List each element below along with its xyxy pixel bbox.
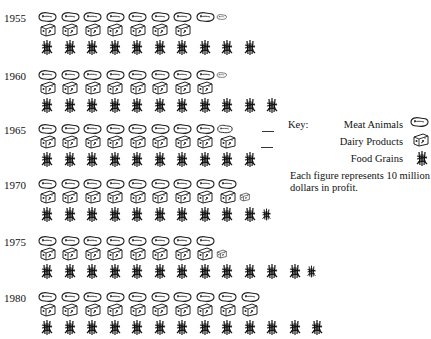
cheese-icon: [171, 135, 194, 149]
meat-icon: [59, 290, 82, 304]
meat-icon: [409, 116, 429, 131]
wheat-icon: [284, 318, 307, 336]
cheese-icon: [149, 303, 172, 317]
meat-icon: [216, 68, 227, 82]
cheese-icon: [59, 190, 82, 204]
key-title: Key:: [288, 118, 308, 131]
wheat-icon: [126, 262, 149, 280]
wheat-icon: [81, 96, 104, 114]
cheese-icon: [81, 23, 104, 37]
cheese-icon: [59, 247, 82, 261]
wheat-icon: [81, 318, 104, 336]
meat-icon: [104, 68, 127, 82]
wheat-icon: [194, 96, 217, 114]
cheese-icon: [149, 247, 172, 261]
wheat-icon: [126, 318, 149, 336]
meat-icon: [194, 68, 217, 82]
wheat-icon: [239, 262, 262, 280]
legend-item-grain: Food Grains: [290, 150, 431, 167]
wheat-icon: [239, 38, 262, 56]
meat-icon: [104, 10, 127, 24]
wheat-icon: [36, 38, 59, 56]
wheat-icon: [126, 38, 149, 56]
meat-icon: [59, 122, 82, 136]
dairy-row: [36, 190, 250, 204]
cheese-icon: [126, 135, 149, 149]
wheat-icon: [216, 262, 239, 280]
wheat-icon: [59, 205, 82, 223]
cheese-icon: [171, 247, 194, 261]
year-group-1960: 1960: [0, 68, 330, 118]
meat-icon: [36, 10, 59, 24]
cheese-icon: [104, 81, 127, 95]
wheat-icon: [194, 150, 217, 168]
wheat-icon: [59, 38, 82, 56]
cheese-icon: [149, 190, 172, 204]
meat-row: [36, 10, 227, 24]
meat-icon: [81, 68, 104, 82]
wheat-icon: [149, 150, 172, 168]
cheese-icon: [194, 190, 217, 204]
wheat-icon: [104, 150, 127, 168]
meat-icon: [36, 122, 59, 136]
meat-icon: [36, 177, 59, 191]
wheat-icon: [149, 318, 172, 336]
cheese-icon: [216, 135, 239, 149]
cheese-icon: [104, 303, 127, 317]
wheat-icon: [239, 96, 262, 114]
wheat-icon: [171, 96, 194, 114]
cheese-icon: [59, 23, 82, 37]
cheese-icon: [239, 190, 250, 204]
year-label: 1975: [4, 236, 26, 248]
meat-icon: [171, 234, 194, 248]
meat-row: [36, 68, 227, 82]
wheat-icon: [171, 150, 194, 168]
wheat-icon: [59, 262, 82, 280]
meat-icon: [59, 177, 82, 191]
wheat-icon: [194, 318, 217, 336]
wheat-icon: [36, 96, 59, 114]
meat-icon: [216, 10, 227, 24]
wheat-icon: [216, 38, 239, 56]
meat-icon: [149, 177, 172, 191]
year-label: 1960: [4, 70, 26, 82]
cheese-icon: [81, 303, 104, 317]
grain-row: [36, 96, 284, 114]
wheat-icon: [171, 262, 194, 280]
wheat-icon: [261, 318, 284, 336]
meat-icon: [149, 122, 172, 136]
wheat-icon: [59, 96, 82, 114]
wheat-icon: [81, 150, 104, 168]
cheese-icon: [81, 190, 104, 204]
wheat-icon: [104, 38, 127, 56]
meat-icon: [104, 122, 127, 136]
meat-icon: [126, 68, 149, 82]
wheat-icon: [415, 150, 429, 170]
wheat-icon: [171, 38, 194, 56]
grain-row: [36, 150, 261, 168]
key-divider-line: [261, 147, 273, 148]
cheese-icon: [36, 190, 59, 204]
meat-icon: [126, 177, 149, 191]
meat-icon: [194, 122, 217, 136]
cheese-icon: [36, 247, 59, 261]
grain-row: [36, 318, 329, 336]
wheat-icon: [239, 205, 262, 223]
meat-row: [36, 122, 233, 136]
meat-icon: [171, 10, 194, 24]
cheese-icon: [81, 247, 104, 261]
wheat-icon: [194, 262, 217, 280]
wheat-icon: [104, 96, 127, 114]
wheat-icon: [59, 150, 82, 168]
wheat-icon: [239, 318, 262, 336]
meat-icon: [36, 290, 59, 304]
wheat-icon: [216, 205, 239, 223]
meat-icon: [126, 10, 149, 24]
cheese-icon: [126, 303, 149, 317]
cheese-icon: [239, 303, 262, 317]
cheese-icon: [171, 81, 194, 95]
meat-icon: [81, 10, 104, 24]
meat-icon: [171, 177, 194, 191]
wheat-icon: [81, 262, 104, 280]
wheat-icon: [104, 205, 127, 223]
